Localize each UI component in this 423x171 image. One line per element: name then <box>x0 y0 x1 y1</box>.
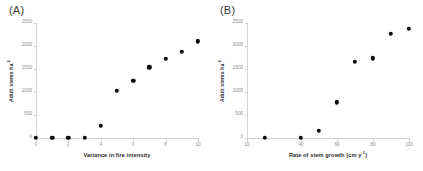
y-tick-label: 1500 <box>12 66 32 71</box>
y-axis-line <box>36 23 37 139</box>
y-tick-label: 1500 <box>223 66 243 71</box>
y-tick-mark <box>245 23 248 24</box>
y-tick-mark <box>245 115 248 116</box>
y-tick-label: 0 <box>223 135 243 140</box>
y-axis-line <box>247 23 248 139</box>
data-point <box>389 32 393 36</box>
data-point <box>99 123 103 127</box>
panel-b-plot-area: 0500100015002000250010406080100Adult ste… <box>211 0 422 171</box>
y-tick-label: 1000 <box>223 89 243 94</box>
data-point <box>131 78 135 82</box>
y-tick-mark <box>34 115 37 116</box>
x-tick-label: 10 <box>237 143 257 148</box>
x-tick-label: 6 <box>123 143 143 148</box>
data-point <box>335 100 339 104</box>
figure-container: (A) 050010001500200025000246810Adult ste… <box>0 0 423 171</box>
x-axis-title: Rate of stem growth (cm y-1) <box>247 152 409 158</box>
data-point <box>353 60 357 64</box>
y-tick-label: 2000 <box>12 43 32 48</box>
y-axis-title: Adult stems ha-1 <box>219 59 225 101</box>
x-tick-label: 60 <box>327 143 347 148</box>
data-point <box>407 26 411 30</box>
y-tick-label: 500 <box>12 112 32 117</box>
data-point <box>196 39 200 43</box>
x-tick-label: 4 <box>91 143 111 148</box>
x-axis-title: Variance in fire intensity <box>36 152 198 158</box>
y-tick-mark <box>34 46 37 47</box>
panel-a-plot-area: 050010001500200025000246810Adult stems h… <box>0 0 211 171</box>
data-point <box>82 136 86 140</box>
y-tick-label: 2500 <box>223 20 243 25</box>
y-tick-mark <box>34 23 37 24</box>
data-point <box>371 56 375 60</box>
data-point <box>163 57 167 61</box>
y-axis-title: Adult stems ha-1 <box>8 59 14 101</box>
data-point <box>50 136 54 140</box>
y-tick-mark <box>34 69 37 70</box>
panel-b: (B) 0500100015002000250010406080100Adult… <box>211 0 422 171</box>
data-point <box>34 136 38 140</box>
y-tick-mark <box>245 46 248 47</box>
x-tick-label: 8 <box>156 143 176 148</box>
data-point <box>317 129 321 133</box>
y-tick-mark <box>245 92 248 93</box>
x-tick-label: 0 <box>26 143 46 148</box>
x-tick-label: 80 <box>363 143 383 148</box>
y-tick-label: 2000 <box>223 43 243 48</box>
panel-a: (A) 050010001500200025000246810Adult ste… <box>0 0 211 171</box>
data-point <box>115 89 119 93</box>
y-tick-label: 1000 <box>12 89 32 94</box>
y-tick-mark <box>34 92 37 93</box>
x-axis-line <box>36 138 199 139</box>
y-tick-label: 0 <box>12 135 32 140</box>
data-point <box>299 136 303 140</box>
x-tick-label: 2 <box>58 143 78 148</box>
y-tick-mark <box>245 69 248 70</box>
x-tick-label: 40 <box>291 143 311 148</box>
y-tick-label: 2500 <box>12 20 32 25</box>
data-point <box>180 49 184 53</box>
x-tick-label: 10 <box>188 143 208 148</box>
x-tick-label: 100 <box>399 143 419 148</box>
data-point <box>147 65 151 69</box>
x-axis-line <box>247 138 410 139</box>
y-tick-label: 500 <box>223 112 243 117</box>
data-point <box>263 136 267 140</box>
data-point <box>66 136 70 140</box>
